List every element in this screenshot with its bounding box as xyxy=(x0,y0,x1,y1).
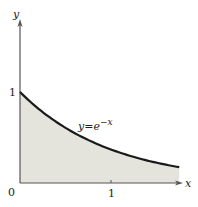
y-axis-label: y xyxy=(12,8,20,21)
exp-decay-plot: y x 0 1 1 y=e−x xyxy=(0,0,198,207)
y-tick-label-1: 1 xyxy=(9,86,16,99)
shaded-area xyxy=(20,92,179,183)
origin-label: 0 xyxy=(8,186,15,199)
x-tick-label-1: 1 xyxy=(108,187,115,200)
curve-label: y=e−x xyxy=(77,117,113,133)
x-axis-label: x xyxy=(185,177,192,190)
